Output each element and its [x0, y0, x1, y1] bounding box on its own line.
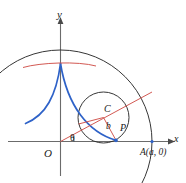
hypocycloid-figure: y x O A(a, 0) C b P θ [0, 0, 186, 183]
point-C-label: C [104, 104, 111, 114]
y-axis-label: y [57, 9, 62, 20]
x-axis-label: x [174, 134, 178, 144]
segment-b-label: b [106, 122, 111, 132]
point-P-marker [114, 139, 118, 143]
angle-theta-label: θ [70, 133, 75, 143]
radius-ray-group [23, 63, 152, 142]
point-A-marker [150, 140, 153, 143]
point-P-label: P [120, 123, 126, 133]
point-markers-group [114, 139, 153, 144]
point-A-label: A(a, 0) [140, 148, 166, 158]
hypocycloid-left-branch [26, 64, 61, 124]
traced-curve-group [26, 64, 117, 141]
origin-label: O [44, 148, 52, 159]
